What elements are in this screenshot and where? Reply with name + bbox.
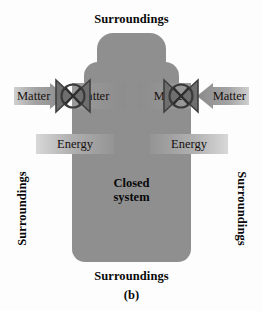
closed-valve-left [52, 74, 94, 118]
closed-valve-right [160, 74, 202, 118]
closed-system-diagram: Surroundings Matter Matter Matter Matter [0, 0, 263, 311]
energy-label-left: Energy [57, 138, 93, 151]
surroundings-label-left: Surroundings [15, 161, 30, 257]
surroundings-label-right: Surroundings [234, 161, 249, 257]
closed-valve-icon [52, 74, 94, 118]
energy-band-right: Energy [150, 134, 228, 154]
surroundings-label-bottom: Surroundings [0, 269, 263, 284]
system-label: Closed system [72, 176, 191, 205]
system-label-line2: system [72, 190, 191, 204]
matter-label-outer-right: Matter [213, 90, 246, 103]
surroundings-label-top: Surroundings [0, 12, 263, 27]
matter-label-outer-left: Matter [17, 90, 50, 103]
system-label-line1: Closed [72, 176, 191, 190]
panel-letter: (b) [0, 288, 263, 303]
closed-valve-icon [160, 74, 202, 118]
matter-arrow-outer-right: Matter [197, 83, 249, 109]
energy-band-left: Energy [36, 134, 114, 154]
energy-label-right: Energy [171, 138, 207, 151]
